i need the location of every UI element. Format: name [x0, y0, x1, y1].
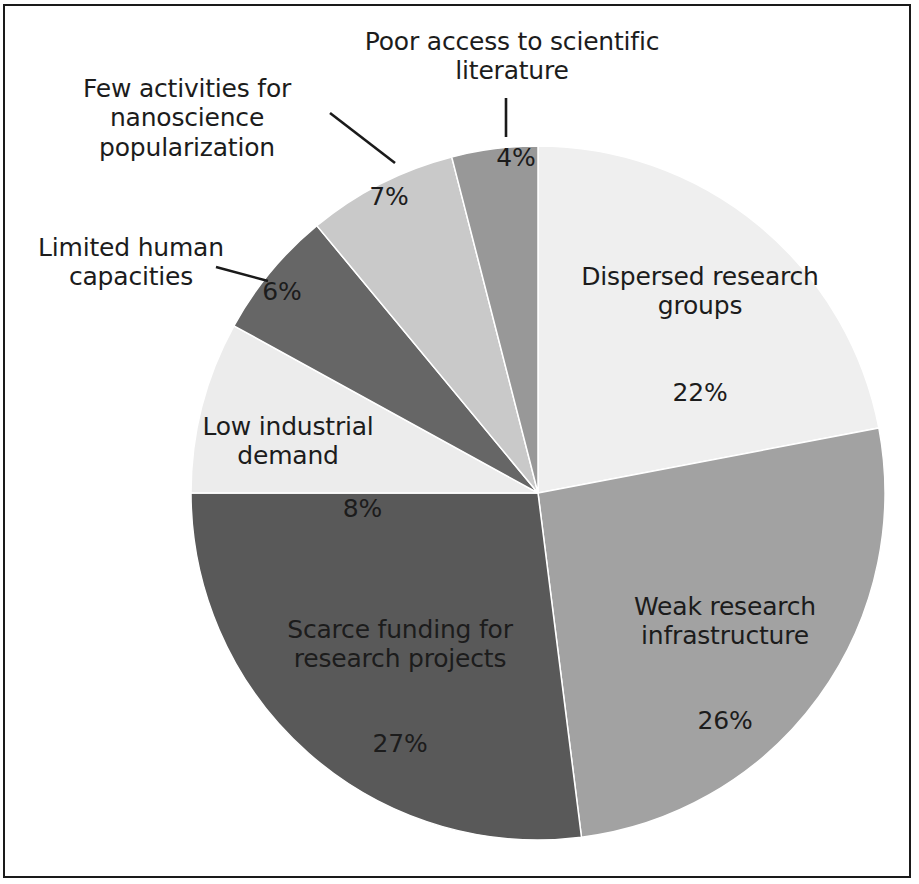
slice-value-text: 4%: [486, 143, 546, 173]
slice-label-low-industrial-demand: Low industrial demand 8%: [178, 393, 398, 542]
callout-label-text: Poor access to scientific literature: [347, 27, 677, 86]
callout-label-limited-human-capacities: Limited human capacities: [16, 214, 246, 311]
slice-label-text: Low industrial demand: [178, 412, 398, 471]
callout-label-few-activities: Few activities for nanoscience populariz…: [22, 55, 352, 181]
slice-label-dispersed-research-groups: Dispersed research groups 22%: [560, 243, 840, 426]
slice-value-poor-access: 4%: [486, 124, 546, 191]
slice-value-text: 26%: [600, 706, 850, 736]
callout-label-text: Limited human capacities: [16, 233, 246, 292]
slice-value-text: 6%: [252, 277, 312, 307]
callout-label-text: Few activities for nanoscience populariz…: [22, 74, 352, 163]
slice-label-text: Weak research infrastructure: [600, 592, 850, 651]
slice-value-text: 27%: [265, 729, 535, 759]
slice-value-few-activities: 7%: [359, 163, 419, 230]
slice-label-text: Scarce funding for research projects: [265, 615, 535, 674]
slice-label-weak-research-infrastructure: Weak research infrastructure 26%: [600, 573, 850, 754]
slice-value-text: 8%: [178, 494, 398, 524]
slice-value-text: 7%: [359, 182, 419, 212]
slice-label-scarce-funding: Scarce funding for research projects 27%: [265, 596, 535, 777]
callout-label-poor-access: Poor access to scientific literature: [347, 8, 677, 105]
slice-value-limited-human-capacities: 6%: [252, 258, 312, 325]
slice-value-text: 22%: [560, 378, 840, 408]
slice-label-text: Dispersed research groups: [560, 262, 840, 321]
pie-chart-figure: Dispersed research groups 22% Weak resea…: [0, 0, 919, 884]
